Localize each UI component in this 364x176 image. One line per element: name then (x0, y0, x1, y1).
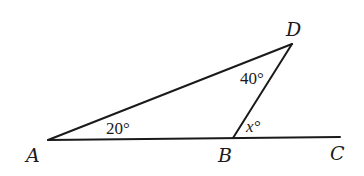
segment-BD (233, 44, 292, 138)
point-label-c: C (330, 142, 345, 164)
line-AC (48, 137, 340, 140)
angle-label-a: 20° (106, 119, 130, 138)
angle-label-x: x° (245, 117, 261, 136)
triangle-diagram: D A B C 40° 20° x° (0, 0, 364, 176)
point-label-d: D (285, 18, 301, 40)
angle-label-d: 40° (240, 69, 264, 88)
point-label-a: A (24, 144, 40, 166)
point-label-b: B (217, 144, 232, 166)
